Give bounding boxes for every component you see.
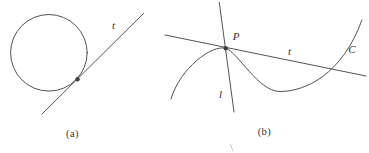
tangent-line-b [165, 35, 366, 76]
tangent-diagrams-figure: t (a) P t l C (b) [0, 0, 369, 153]
stray-mark [231, 145, 234, 152]
tangent-line-a [42, 14, 144, 115]
panel-b-drawing [165, 3, 366, 113]
label-p: P [232, 30, 240, 42]
label-l: l [219, 88, 222, 100]
figure-canvas: t (a) P t l C (b) [0, 0, 369, 153]
caption-panel-b: (b) [258, 126, 272, 138]
point-p-dot [224, 46, 228, 50]
diagram-strokes [11, 3, 366, 152]
tangency-point-a [75, 77, 79, 81]
panel-a-drawing [11, 14, 144, 115]
label-c: C [348, 43, 356, 55]
label-t-panel-b: t [288, 45, 292, 57]
label-t-panel-a: t [112, 19, 116, 31]
curve-c [171, 20, 362, 99]
caption-panel-a: (a) [66, 128, 79, 140]
diagram-labels: t (a) P t l C (b) [66, 19, 356, 140]
